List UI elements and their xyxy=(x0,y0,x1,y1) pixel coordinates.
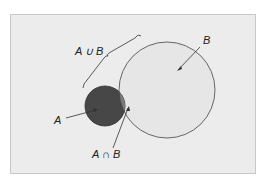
venn-diagram: A ∪ B B A A ∩ B xyxy=(0,0,268,180)
label-union: A ∪ B xyxy=(74,45,103,57)
label-b: B xyxy=(203,34,210,46)
label-intersection: A ∩ B xyxy=(91,148,120,160)
circle-b xyxy=(119,42,215,138)
label-a: A xyxy=(53,114,61,126)
